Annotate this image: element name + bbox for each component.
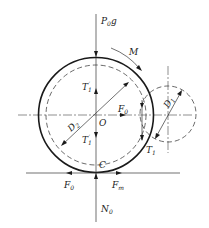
moment-label: M <box>128 47 139 57</box>
center-label: O <box>99 118 107 128</box>
weight-label: P0g <box>100 16 117 27</box>
tension-upper-label: T1′ <box>82 80 92 93</box>
large-diameter-label: D2 <box>65 118 81 134</box>
tension-lower-arrowhead <box>94 132 98 138</box>
contact-tension-label: T1 <box>146 145 156 156</box>
weight-arrowhead <box>94 51 98 57</box>
large-diameter-arrow-top <box>123 82 129 87</box>
ground-force-left-arrowhead <box>66 171 72 175</box>
normal-force-arrowhead <box>94 173 98 179</box>
small-diameter-arrow-top <box>177 90 182 96</box>
contact-tension-arrowhead <box>140 135 144 141</box>
ground-force-left-label: F0 <box>63 180 74 191</box>
tension-upper-arrowhead <box>94 88 98 94</box>
ground-force-right-arrowhead <box>116 171 122 175</box>
contact-point-label: C <box>99 160 106 170</box>
center-force-label: F0 <box>117 104 128 115</box>
force-diagram: P0g M T1′ F0 O D2 T1′ D1 T1 C F0 Fm N0 <box>0 0 209 228</box>
ground-force-right-label: Fm <box>111 180 124 191</box>
tension-lower-label: T1′ <box>82 133 92 146</box>
contact-v-arrow <box>140 103 144 108</box>
small-diameter-arrow-bottom <box>155 133 160 139</box>
normal-force-label: N0 <box>100 204 113 215</box>
small-diameter-label: D1 <box>161 95 177 111</box>
